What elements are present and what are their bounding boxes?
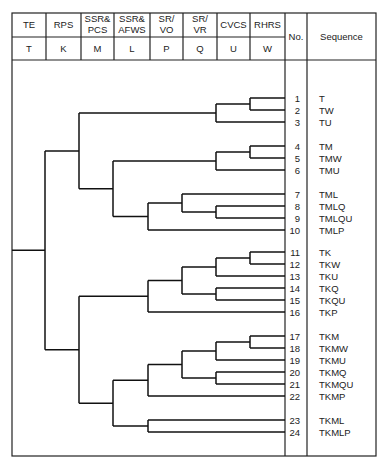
sequence-number: 9	[295, 213, 300, 224]
sequence-row: 20TKMQ	[289, 367, 346, 378]
event-header-label: CVCS	[220, 19, 246, 30]
sequence-number: 5	[295, 153, 300, 164]
sequence-label: T	[319, 93, 325, 104]
sequence-label: TK	[319, 247, 332, 258]
sequence-number: 22	[289, 391, 300, 402]
sequence-row: 21TKMQU	[289, 379, 353, 390]
event-header-label: RPS	[54, 19, 74, 30]
event-symbol: Q	[196, 43, 203, 54]
event-tree-diagram: TETRPSKSSR&PCSMSSR&AFWSLSR/VOPSR/VRQCVCS…	[0, 0, 385, 467]
sequence-row: 14TKQ	[289, 283, 338, 294]
event-header-label: AFWS	[118, 24, 145, 35]
sequence-number: 8	[295, 201, 300, 212]
sequence-number: 12	[289, 259, 300, 270]
event-symbol: P	[163, 43, 169, 54]
event-header-label: SSR&	[119, 13, 146, 24]
sequence-label: TKQU	[319, 295, 346, 306]
sequence-label: TMU	[319, 165, 340, 176]
sequence-label: TM	[319, 141, 333, 152]
sequence-row: 7TML	[295, 189, 338, 200]
sequence-header: Sequence	[320, 31, 363, 42]
sequence-rows: 1T2TW3TU4TM5TMW6TMU7TML8TMLQ9TMLQU10TMLP…	[289, 93, 353, 438]
event-symbol: M	[94, 43, 102, 54]
event-symbol: W	[263, 43, 272, 54]
sequence-label: TMLQU	[319, 213, 352, 224]
sequence-row: 2TW	[295, 105, 334, 116]
event-symbol: K	[60, 43, 67, 54]
sequence-label: TKMU	[319, 355, 346, 366]
sequence-number: 23	[289, 415, 300, 426]
sequence-label: TMW	[319, 153, 342, 164]
sequence-row: 18TKMW	[289, 343, 348, 354]
sequence-label: TKMW	[319, 343, 348, 354]
sequence-number: 21	[289, 379, 300, 390]
sequence-number: 4	[295, 141, 300, 152]
sequence-number: 1	[295, 93, 300, 104]
sequence-number: 7	[295, 189, 300, 200]
sequence-label: TKP	[319, 307, 337, 318]
sequence-number: 6	[295, 165, 300, 176]
sequence-label: TMLP	[319, 225, 344, 236]
sequence-row: 4TM	[295, 141, 333, 152]
event-header-label: SR/	[159, 13, 175, 24]
event-symbol: T	[26, 43, 32, 54]
sequence-row: 22TKMP	[289, 391, 345, 402]
no-header: No.	[289, 31, 304, 42]
sequence-label: TKU	[319, 271, 338, 282]
event-header-label: VO	[160, 24, 174, 35]
sequence-row: 15TKQU	[289, 295, 345, 306]
sequence-number: 3	[295, 117, 300, 128]
sequence-number: 10	[289, 225, 300, 236]
sequence-label: TU	[319, 117, 332, 128]
event-header-label: TE	[23, 19, 35, 30]
column-headers: TETRPSKSSR&PCSMSSR&AFWSLSR/VOPSR/VRQCVCS…	[23, 13, 363, 54]
sequence-number: 17	[289, 331, 300, 342]
sequence-label: TMLQ	[319, 201, 345, 212]
sequence-row: 1T	[295, 93, 325, 104]
event-header-label: VR	[193, 24, 206, 35]
sequence-number: 24	[289, 427, 300, 438]
event-header-label: SSR&	[85, 13, 112, 24]
sequence-row: 8TMLQ	[295, 201, 346, 212]
sequence-row: 13TKU	[289, 271, 338, 282]
sequence-row: 16TKP	[289, 307, 337, 318]
sequence-label: TML	[319, 189, 338, 200]
sequence-label: TKW	[319, 259, 340, 270]
sequence-number: 18	[289, 343, 300, 354]
event-header-label: PCS	[88, 24, 108, 35]
sequence-row: 11TK	[290, 247, 332, 258]
sequence-number: 2	[295, 105, 300, 116]
sequence-label: TKMP	[319, 391, 345, 402]
sequence-row: 23TKML	[289, 415, 344, 426]
sequence-label: TKQ	[319, 283, 339, 294]
sequence-row: 5TMW	[295, 153, 342, 164]
sequence-row: 6TMU	[295, 165, 340, 176]
sequence-row: 12TKW	[289, 259, 340, 270]
sequence-number: 13	[289, 271, 300, 282]
sequence-label: TKML	[319, 415, 344, 426]
event-symbol: L	[129, 43, 134, 54]
sequence-label: TW	[319, 105, 334, 116]
sequence-label: TKMQ	[319, 367, 346, 378]
sequence-row: 17TKM	[289, 331, 339, 342]
sequence-row: 9TMLQU	[295, 213, 353, 224]
sequence-number: 15	[289, 295, 300, 306]
sequence-number: 16	[289, 307, 300, 318]
event-header-label: SR/	[192, 13, 208, 24]
event-header-label: RHRS	[254, 19, 281, 30]
sequence-label: TKMLP	[319, 427, 351, 438]
sequence-number: 11	[290, 247, 300, 258]
event-symbol: U	[230, 43, 237, 54]
sequence-number: 19	[289, 355, 300, 366]
sequence-label: TKM	[319, 331, 339, 342]
sequence-label: TKMQU	[319, 379, 353, 390]
sequence-number: 14	[289, 283, 300, 294]
sequence-row: 3TU	[295, 117, 332, 128]
tree-branches	[12, 98, 285, 432]
sequence-row: 24TKMLP	[289, 427, 350, 438]
sequence-row: 10TMLP	[289, 225, 344, 236]
sequence-row: 19TKMU	[289, 355, 346, 366]
sequence-number: 20	[289, 367, 300, 378]
